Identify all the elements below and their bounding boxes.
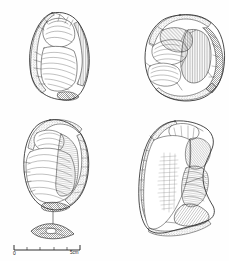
scale-bar-end-label: 5cm: [70, 251, 79, 256]
artifact-lower-right: [139, 121, 215, 236]
scale-bar-start-label: 0: [13, 251, 16, 256]
artifact-upper-right: [145, 15, 225, 101]
upper-left-scar-top: [43, 18, 75, 47]
illustration-plate: [0, 0, 229, 261]
artifact-lower-left: [24, 119, 89, 211]
artifact-upper-left: [30, 12, 90, 100]
upper-right-scar-center-vertical: [181, 29, 211, 83]
lithic-plate-svg: [0, 0, 229, 261]
cross-section-highlight: [46, 228, 56, 233]
